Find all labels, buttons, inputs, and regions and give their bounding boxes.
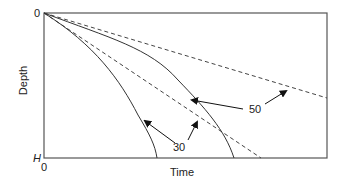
y-tick-h: H: [33, 153, 41, 164]
plot-frame: [44, 13, 327, 158]
y-axis-label: Depth: [18, 66, 29, 95]
solid-curve-50: [44, 13, 234, 158]
arrow-50-dashed: [265, 91, 286, 104]
arrow-30-dashed: [188, 122, 197, 140]
solid-curve-30: [44, 13, 157, 158]
y-tick-zero: 0: [34, 8, 40, 19]
annotation-50: 50: [249, 104, 261, 115]
x-tick-zero: 0: [41, 162, 47, 173]
chart-canvas: [0, 0, 343, 182]
arrow-50-solid: [192, 100, 243, 109]
dashed-line-30: [44, 13, 261, 158]
dashed-line-50: [44, 13, 327, 98]
arrow-30-solid: [145, 121, 175, 143]
x-axis-label: Time: [170, 167, 194, 178]
annotation-30: 30: [173, 142, 185, 153]
